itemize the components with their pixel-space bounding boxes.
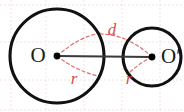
large-circle-center-dot: [54, 53, 61, 60]
large-upper-radius-guide: [57, 33, 101, 56]
small-upper-radius-guide: [126, 40, 152, 57]
center-distance-segment: [57, 56, 152, 57]
large-circle-center-label: O: [30, 43, 45, 67]
small-circle-center-dot: [149, 54, 156, 61]
large-circle-radius-label: r: [71, 69, 78, 88]
geometry-figure-canvas: O O′ d r r: [0, 0, 184, 112]
two-circles-diagram: O O′ d r r: [0, 0, 184, 112]
large-lower-radius-guide: [57, 56, 99, 76]
distance-label-d: d: [108, 20, 117, 39]
small-circle-center-label: O′: [161, 44, 181, 68]
small-circle-radius-label: r: [126, 69, 133, 88]
